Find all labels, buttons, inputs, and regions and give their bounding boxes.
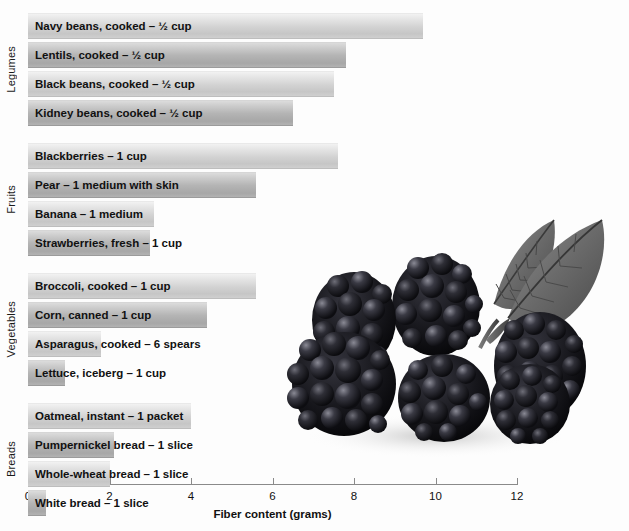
group-axis-label-text: Breads: [5, 441, 17, 477]
bar-label: Kidney beans, cooked – ½ cup: [35, 100, 202, 126]
bar-label: Blackberries – 1 cup: [35, 143, 147, 169]
fiber-content-bar-chart: Navy beans, cooked – ½ cupLentils, cooke…: [0, 0, 629, 531]
bar-label: Oatmeal, instant – 1 packet: [35, 403, 183, 429]
group-axis-label-text: Legumes: [5, 46, 17, 93]
bar-label: White bread – 1 slice: [35, 490, 149, 516]
group-axis-label: Fruits: [0, 143, 22, 256]
bar-label: Whole-wheat bread – 1 slice: [35, 461, 188, 487]
group-axis-label: Breads: [0, 403, 22, 516]
group-axis-label-text: Fruits: [5, 185, 17, 214]
bar-label: Broccoli, cooked – 1 cup: [35, 273, 170, 299]
bar-label: Black beans, cooked – ½ cup: [35, 71, 195, 97]
bar-label: Asparagus, cooked – 6 spears: [35, 331, 201, 357]
bar-label: Navy beans, cooked – ½ cup: [35, 13, 192, 39]
bar-label: Lettuce, iceberg – 1 cup: [35, 360, 166, 386]
plot-area: Navy beans, cooked – ½ cupLentils, cooke…: [0, 0, 629, 531]
bar-label: Pear – 1 medium with skin: [35, 172, 179, 198]
group-axis-label: Vegetables: [0, 273, 22, 386]
bar-label: Strawberries, fresh – 1 cup: [35, 230, 182, 256]
group-axis-label: Legumes: [0, 13, 22, 126]
group-axis-label-text: Vegetables: [5, 301, 17, 357]
bar-label: Pumpernickel bread – 1 slice: [35, 432, 193, 458]
bar-label: Corn, canned – 1 cup: [35, 302, 151, 328]
bar-label: Banana – 1 medium: [35, 201, 143, 227]
bar-label: Lentils, cooked – ½ cup: [35, 42, 165, 68]
